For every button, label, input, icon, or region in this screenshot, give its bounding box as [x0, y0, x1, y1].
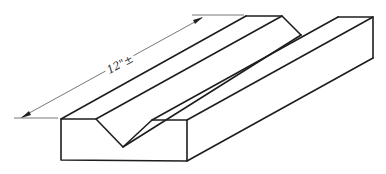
back-face-right [338, 17, 373, 58]
arrowhead-bottom-icon [21, 111, 31, 118]
arrowhead-top-icon [193, 17, 203, 24]
edge-v-right [152, 17, 338, 120]
edge-bottom-right [187, 58, 373, 161]
front-face [61, 119, 187, 161]
v-block-drawing [0, 0, 386, 174]
